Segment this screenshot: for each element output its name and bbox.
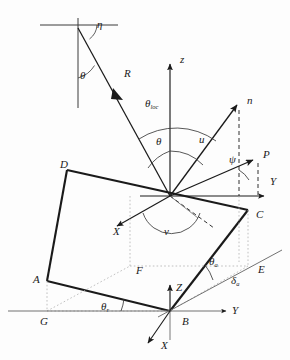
label-F-corner: F bbox=[136, 265, 143, 276]
auxiliary-ray bbox=[170, 196, 198, 218]
label-D-corner: D bbox=[60, 159, 68, 170]
label-G-corner: G bbox=[40, 316, 48, 327]
incident-ray-R bbox=[78, 28, 170, 196]
label-X-lower: X bbox=[161, 340, 168, 351]
label-Y-lower: Y bbox=[232, 305, 238, 316]
x-axis-upper bbox=[117, 196, 170, 226]
label-eta: η bbox=[97, 19, 102, 30]
theta-mid-arc bbox=[148, 151, 170, 168]
label-v-angle: v bbox=[164, 226, 169, 237]
reference-cross bbox=[40, 18, 118, 108]
eta-arc bbox=[90, 25, 98, 39]
v-angle-arc bbox=[143, 213, 200, 234]
label-E-corner: E bbox=[258, 264, 265, 275]
diagram-canvas bbox=[0, 0, 290, 360]
label-theta-mid: θ bbox=[156, 136, 161, 147]
label-C-corner: C bbox=[256, 209, 263, 220]
label-X-upper: X bbox=[113, 226, 120, 237]
label-A-corner: A bbox=[33, 274, 40, 285]
theta-a-subscript: a bbox=[214, 261, 217, 268]
label-R: R bbox=[124, 68, 131, 79]
theta-r-subscript: r bbox=[106, 306, 109, 313]
label-B-origin: B bbox=[182, 316, 189, 327]
label-delta-a: δa bbox=[231, 275, 239, 286]
normal-vector-n bbox=[170, 105, 237, 196]
label-theta-loc: θloc bbox=[145, 98, 158, 109]
geometry-diagram: η θ R z θloc n θ u ψ P Y D C X v A F E θ… bbox=[0, 0, 290, 360]
label-psi-angle: ψ bbox=[229, 154, 236, 165]
label-theta-r: θr bbox=[101, 301, 109, 312]
label-theta-a: θa bbox=[209, 256, 218, 267]
label-n-vector: n bbox=[247, 95, 253, 106]
tilted-facet bbox=[47, 170, 248, 311]
theta-r-arc bbox=[121, 299, 124, 311]
label-z-axis-upper: z bbox=[180, 54, 184, 65]
label-u-angle: u bbox=[199, 134, 205, 145]
label-theta-top: θ bbox=[80, 70, 85, 81]
vertical-droppers bbox=[47, 196, 248, 311]
label-P-vector: P bbox=[263, 149, 270, 160]
label-Z-lower: Z bbox=[176, 282, 182, 293]
theta-loc-subscript: loc bbox=[150, 103, 158, 110]
psi-angle-arc bbox=[239, 170, 249, 180]
theta-a-arc bbox=[205, 265, 213, 280]
delta-a-subscript: a bbox=[236, 280, 239, 287]
label-Y-upper: Y bbox=[270, 176, 276, 187]
